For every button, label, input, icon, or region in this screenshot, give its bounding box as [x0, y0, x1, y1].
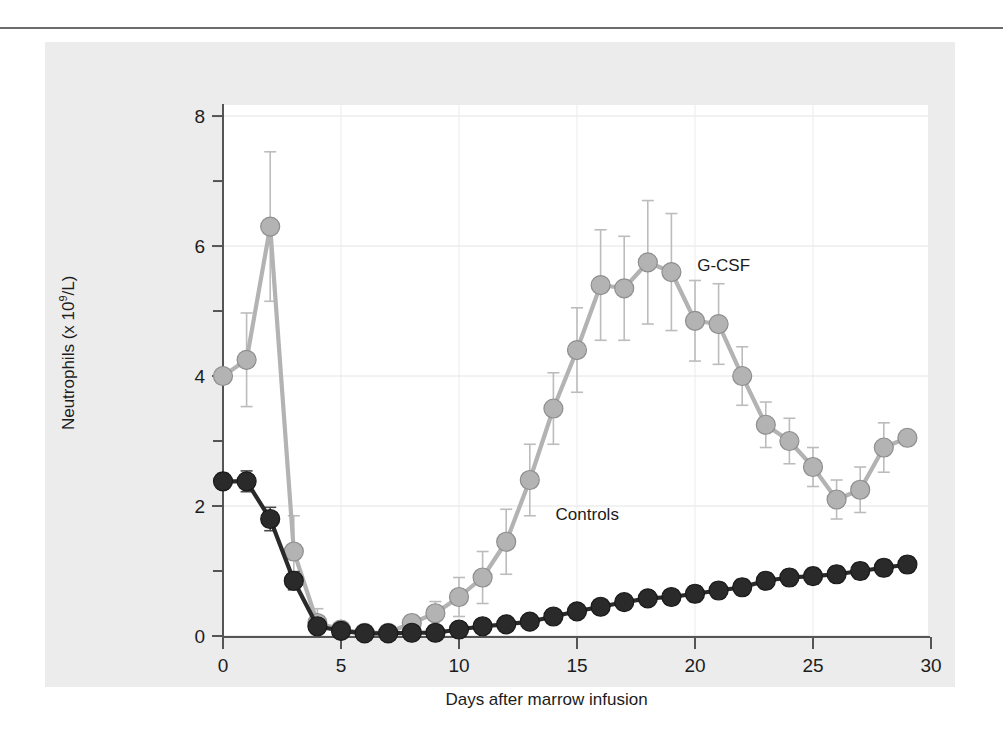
figure-page: 02468051015202530 Neutrophils (x 109/L) … — [0, 0, 1003, 731]
y-tick-label: 4 — [194, 366, 205, 387]
top-divider-rule — [0, 27, 1003, 29]
y-axis-title-suffix: /L) — [59, 276, 78, 296]
x-tick-label: 20 — [684, 655, 705, 676]
plot-area — [223, 105, 928, 635]
figure-panel: 02468051015202530 Neutrophils (x 109/L) … — [45, 42, 955, 687]
y-tick-label: 6 — [194, 236, 205, 257]
x-tick-label: 0 — [218, 655, 229, 676]
x-tick-label: 30 — [920, 655, 941, 676]
series-label-controls: Controls — [556, 505, 619, 525]
x-tick-label: 10 — [448, 655, 469, 676]
series-label-gcsf: G-CSF — [697, 256, 750, 276]
y-axis-title-exponent: 9 — [57, 295, 69, 301]
y-axis-title: Neutrophils (x 109/L) — [57, 188, 79, 518]
x-tick-label: 15 — [566, 655, 587, 676]
x-tick-label: 5 — [336, 655, 347, 676]
y-tick-label: 0 — [194, 626, 205, 647]
y-tick-label: 2 — [194, 496, 205, 517]
x-axis-title: Days after marrow infusion — [45, 690, 1003, 710]
x-tick-label: 25 — [802, 655, 823, 676]
y-tick-label: 8 — [194, 106, 205, 127]
y-axis-title-prefix: Neutrophils (x 10 — [59, 302, 78, 431]
